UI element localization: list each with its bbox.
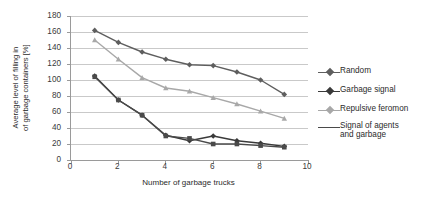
series-lines [71, 16, 308, 160]
chart-figure: Average level of filling in of garbage c… [0, 0, 432, 197]
data-point-marker [187, 136, 192, 141]
y-axis-tick-label: 0 [56, 156, 61, 164]
series-4 [92, 75, 286, 150]
y-axis-title-line-1: Average level of filling in [11, 13, 21, 163]
series-1 [92, 28, 287, 98]
y-axis-tick-labels: 020406080100120140160180 [32, 0, 64, 197]
legend-point-swatch [326, 68, 334, 76]
legend-item-label: Random [340, 66, 371, 75]
legend-item-label: Signal of agents and garbage [340, 121, 399, 140]
series-line [95, 76, 285, 146]
y-axis-title-line-2: of garbage containers [%] [21, 13, 31, 163]
y-axis-tick-label: 100 [47, 76, 61, 84]
data-point-marker [210, 63, 216, 69]
legend-marker-icon [318, 105, 340, 115]
y-axis-tick-label: 120 [47, 60, 61, 68]
data-point-marker [235, 142, 240, 147]
data-point-marker [139, 49, 145, 55]
data-point-marker [187, 62, 193, 68]
legend-marker-icon [318, 67, 340, 77]
y-axis-tick-label: 180 [47, 12, 61, 20]
x-axis-tick-label: 0 [68, 163, 73, 171]
data-point-marker [116, 40, 122, 46]
series-line [95, 40, 285, 118]
data-point-marker [211, 142, 216, 147]
x-axis-tick-label: 2 [115, 163, 120, 171]
legend-item-label: Repulsive feromon [340, 104, 408, 113]
y-axis-title: Average level of filling in of garbage c… [0, 0, 34, 197]
legend-marker-icon [318, 122, 340, 132]
data-point-marker [163, 56, 169, 62]
y-axis-tick-label: 40 [52, 124, 61, 132]
legend-item-label: Garbage signal [340, 85, 396, 94]
legend-item-3[interactable]: Repulsive feromon [318, 104, 408, 115]
data-point-marker [210, 133, 216, 139]
legend-item-1[interactable]: Random [318, 66, 371, 77]
x-axis-tick-label: 4 [163, 163, 168, 171]
legend-marker-icon [318, 86, 340, 96]
y-axis-tick-label: 80 [52, 92, 61, 100]
x-axis-tick-label: 6 [210, 163, 215, 171]
data-point-marker [234, 69, 240, 75]
legend-point-swatch [326, 106, 334, 114]
legend-item-2[interactable]: Garbage signal [318, 85, 396, 96]
data-point-marker [116, 98, 121, 103]
x-axis-tick-label: 8 [257, 163, 262, 171]
legend-point-swatch [326, 87, 334, 95]
legend-line-swatch [318, 127, 340, 129]
data-point-marker [92, 75, 97, 80]
data-point-marker [258, 143, 263, 148]
y-axis-tick-label: 140 [47, 44, 61, 52]
x-axis-tick-labels: 0246810 [70, 163, 307, 177]
x-axis-title: Number of garbage trucks [70, 178, 307, 187]
y-axis-tick-label: 60 [52, 108, 61, 116]
data-point-marker [164, 134, 169, 139]
data-point-marker [92, 37, 97, 42]
x-axis-tick-label: 10 [302, 163, 311, 171]
data-point-marker [140, 113, 145, 118]
legend-item-4[interactable]: Signal of agents and garbage [318, 121, 399, 140]
y-axis-tick-label: 160 [47, 28, 61, 36]
y-axis-tick-label: 20 [52, 140, 61, 148]
data-point-marker [92, 28, 98, 34]
plot-area [70, 16, 308, 161]
data-point-marker [282, 145, 287, 150]
